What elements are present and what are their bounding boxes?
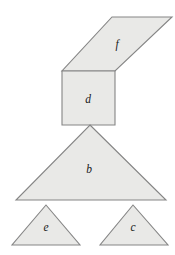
- figure-canvas: fdbec: [0, 0, 175, 255]
- shapes-diagram: fdbec: [0, 0, 175, 255]
- shape-label-e: e: [43, 221, 48, 233]
- shape-label-c: c: [130, 221, 135, 233]
- shape-label-b: b: [86, 163, 92, 175]
- shape-label-d: d: [85, 93, 91, 105]
- shapes-group: [12, 17, 172, 245]
